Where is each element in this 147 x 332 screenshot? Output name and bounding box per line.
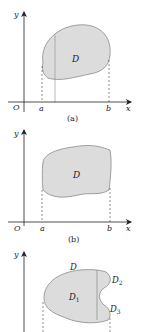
caption-a: (a) — [67, 114, 78, 123]
panel-c: y D D1 D2 D3 — [13, 250, 123, 332]
y-axis-label: y — [13, 250, 19, 259]
region-d-shape — [43, 25, 111, 80]
b-label: b — [106, 104, 111, 113]
a-label: a — [39, 104, 44, 113]
origin-label: O — [14, 224, 21, 233]
a-label: a — [40, 224, 45, 233]
y-axis-label: y — [13, 129, 19, 138]
y-axis-label: y — [13, 10, 19, 19]
origin-label: O — [13, 103, 20, 112]
caption-b: (b) — [68, 235, 79, 244]
region-label: D — [69, 262, 77, 272]
figure-canvas: y O a b x D (a) y O a b x D (b) y D D1 D… — [0, 0, 147, 332]
panel-a: y O a b x D (a) — [8, 10, 131, 123]
region-label: D — [72, 170, 80, 180]
subregion-3-label: D3 — [109, 304, 121, 315]
x-axis-label: x — [126, 104, 131, 113]
b-label: b — [107, 224, 112, 233]
x-axis-label: x — [126, 224, 131, 233]
subregion-2-label: D2 — [111, 275, 123, 286]
panel-b: y O a b x D (b) — [8, 129, 131, 244]
region-label: D — [71, 54, 79, 64]
